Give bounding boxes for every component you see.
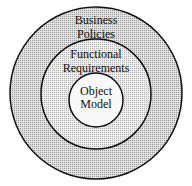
middle-label-line1: Functional xyxy=(0,48,192,60)
inner-label-line2: Model xyxy=(0,98,192,110)
outer-label-line2: Policies xyxy=(0,28,192,40)
concentric-diagram: Business Policies Functional Requirement… xyxy=(0,0,192,186)
outer-label-line1: Business xyxy=(0,14,192,26)
middle-label-line2: Requirements xyxy=(0,62,192,74)
inner-label-line1: Object xyxy=(0,85,192,97)
